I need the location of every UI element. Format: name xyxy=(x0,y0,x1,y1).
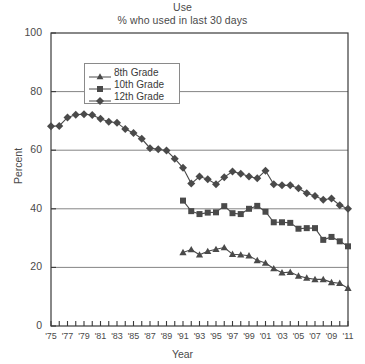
data-point xyxy=(319,196,327,204)
data-point xyxy=(344,205,352,213)
data-point xyxy=(105,118,113,126)
data-point xyxy=(303,189,311,197)
data-point xyxy=(263,209,269,215)
data-point xyxy=(72,111,80,119)
data-point xyxy=(221,244,228,250)
y-axis-tick-label: 40 xyxy=(8,202,42,214)
data-point xyxy=(296,226,302,232)
chart-legend: 8th Grade 10th Grade 12th Grade xyxy=(84,63,180,104)
data-point xyxy=(270,180,278,188)
data-point xyxy=(345,243,351,249)
data-point xyxy=(188,208,194,214)
data-point xyxy=(329,234,335,240)
data-point xyxy=(344,285,351,291)
series-10th-grade xyxy=(180,198,351,250)
y-axis-tick-label: 20 xyxy=(8,260,42,272)
data-point xyxy=(47,122,55,130)
data-point xyxy=(304,225,310,231)
y-axis-tick-label: 100 xyxy=(8,26,42,38)
x-axis-label: Year xyxy=(0,348,365,360)
series-12th-grade xyxy=(47,110,352,213)
data-point xyxy=(196,251,203,257)
data-point xyxy=(246,206,252,212)
legend-label-10th-grade: 10th Grade xyxy=(111,79,164,90)
y-axis-tick-label: 0 xyxy=(8,319,42,331)
data-point xyxy=(287,268,294,274)
data-point xyxy=(154,145,162,153)
data-point xyxy=(295,272,302,278)
data-series-group xyxy=(47,110,352,291)
diamond-marker-icon xyxy=(89,92,111,102)
data-point xyxy=(229,168,237,176)
series-line xyxy=(51,114,348,209)
x-axis-tick-label: '11 xyxy=(335,331,361,341)
legend-item-8th-grade: 8th Grade xyxy=(89,67,175,79)
y-axis-label: Percent xyxy=(12,136,24,196)
data-point xyxy=(204,175,212,183)
data-point xyxy=(237,170,245,178)
data-point xyxy=(295,184,303,192)
data-point xyxy=(254,203,260,209)
data-point xyxy=(238,211,244,217)
data-point xyxy=(287,220,293,226)
data-point xyxy=(221,203,227,209)
data-point xyxy=(197,211,203,217)
data-point xyxy=(320,237,326,243)
data-point xyxy=(278,181,286,189)
data-point xyxy=(130,129,138,137)
triangle-marker-icon xyxy=(89,68,111,78)
legend-item-12th-grade: 12th Grade xyxy=(89,91,175,103)
data-point xyxy=(188,246,195,252)
y-axis-tick-label: 80 xyxy=(8,85,42,97)
legend-item-10th-grade: 10th Grade xyxy=(89,79,175,91)
data-point xyxy=(205,210,211,216)
data-point xyxy=(254,257,261,263)
legend-label-8th-grade: 8th Grade xyxy=(111,67,158,78)
square-marker-icon xyxy=(89,80,111,90)
data-point xyxy=(337,238,343,244)
data-point xyxy=(245,173,253,181)
legend-label-12th-grade: 12th Grade xyxy=(111,91,164,102)
data-point xyxy=(180,198,186,204)
chart-container: Use % who used in last 30 days 020406080… xyxy=(0,0,365,364)
data-point xyxy=(80,110,88,118)
data-point xyxy=(271,219,277,225)
data-point xyxy=(311,192,319,200)
data-point xyxy=(213,209,219,215)
plot-area xyxy=(0,0,365,364)
data-point xyxy=(279,219,285,225)
data-point xyxy=(286,181,294,189)
data-point xyxy=(230,210,236,216)
data-point xyxy=(312,225,318,231)
data-point xyxy=(97,115,105,123)
data-point xyxy=(88,111,96,119)
data-point xyxy=(270,265,277,271)
